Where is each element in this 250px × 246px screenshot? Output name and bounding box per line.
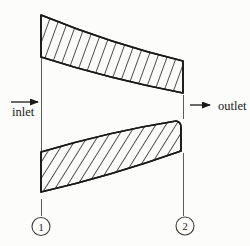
station-2-number: 2 [182,221,187,232]
outlet-annotation: outlet [190,99,247,113]
nozzle-diagram: inlet outlet 1 2 [0,0,250,246]
inlet-annotation: inlet [11,102,38,119]
outlet-label: outlet [218,99,247,113]
station-1-number: 1 [38,222,43,233]
inlet-label: inlet [12,105,35,119]
station-marker-1: 1 [32,218,50,236]
station-marker-2: 2 [176,217,194,235]
figure-canvas: inlet outlet 1 2 [0,0,250,246]
nozzle-bottom-wall [41,121,181,192]
nozzle-top-wall [41,15,183,93]
